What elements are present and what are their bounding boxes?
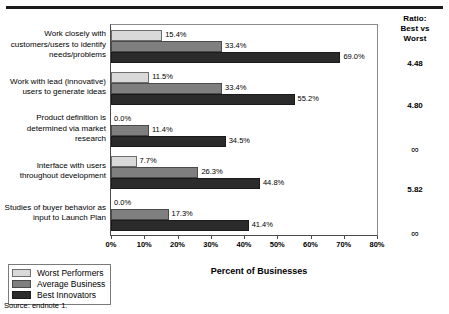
bar-row: 17.3%: [111, 209, 377, 220]
bar-row: 15.4%: [111, 30, 377, 41]
ratio-value: ∞: [384, 227, 446, 239]
bar-value-label: 41.4%: [252, 219, 273, 230]
bar-value-label: 15.4%: [165, 29, 186, 40]
x-tick-label: 20%: [163, 240, 193, 249]
ratio-header-line-2: Best vs: [384, 24, 446, 34]
bar-group: 11.5%33.4%55.2%: [111, 67, 377, 109]
ratio-header-line-3: Worst: [384, 34, 446, 44]
bar-row: 44.8%: [111, 178, 377, 189]
bar-value-label: 44.8%: [263, 177, 284, 188]
bar-value-label: 0.0%: [114, 197, 131, 208]
bar-value-label: 11.4%: [152, 124, 173, 135]
x-tick-mark: [178, 236, 179, 239]
ratio-column-header: Ratio: Best vs Worst: [384, 14, 446, 44]
legend-item-worst-performers: Worst Performers: [12, 268, 105, 278]
category-label: Work closely with customers/users to ide…: [0, 29, 106, 61]
legend-swatch-icon-best-innovators: [12, 291, 31, 299]
x-tick-label: 40%: [229, 240, 259, 249]
top-divider-rule: [6, 6, 443, 9]
bar-row: 33.4%: [111, 83, 377, 94]
bar-value-label: 34.5%: [229, 135, 250, 146]
bar-row: 11.5%: [111, 72, 377, 83]
bar-group: 15.4%33.4%69.0%: [111, 25, 377, 67]
legend-item-average-business: Average Business: [12, 279, 105, 289]
bar-worst-performers: [111, 30, 162, 41]
bar-best-innovators: [111, 52, 340, 63]
source-note: Source: endnote 1.: [4, 301, 67, 310]
bar-row: 33.4%: [111, 41, 377, 52]
bar-value-label: 26.3%: [201, 166, 222, 177]
bar-average-business: [111, 209, 169, 220]
bar-value-label: 11.5%: [152, 71, 173, 82]
x-tick-mark: [244, 236, 245, 239]
bar-value-label: 17.3%: [172, 208, 193, 219]
legend-swatch-icon-worst-performers: [12, 269, 31, 277]
category-axis-labels: Work closely with customers/users to ide…: [0, 24, 106, 236]
x-axis-ticks: 0%10%20%30%40%50%60%70%80%: [110, 236, 378, 252]
x-tick-mark: [311, 236, 312, 239]
bar-row: 11.4%: [111, 125, 377, 136]
ratio-value: 4.48: [384, 59, 446, 68]
x-tick-label: 0%: [96, 240, 126, 249]
x-tick-mark: [144, 236, 145, 239]
bar-best-innovators: [111, 220, 249, 231]
bar-value-label: 69.0%: [343, 51, 364, 62]
ratio-value: ∞: [384, 143, 446, 155]
bar-row: 7.7%: [111, 156, 377, 167]
x-axis-title: Percent of Businesses: [140, 266, 378, 276]
bar-average-business: [111, 41, 222, 52]
bar-best-innovators: [111, 136, 226, 147]
bar-worst-performers: [111, 72, 149, 83]
bar-row: 0.0%: [111, 198, 377, 209]
x-tick-mark: [211, 236, 212, 239]
bar-group: 7.7%26.3%44.8%: [111, 151, 377, 193]
bar-row: 41.4%: [111, 220, 377, 231]
category-label: Work with lead (innovative) users to gen…: [0, 77, 106, 98]
bar-value-label: 33.4%: [225, 82, 246, 93]
legend-label-average-business: Average Business: [37, 279, 105, 289]
x-tick-mark: [111, 236, 112, 239]
bar-value-label: 55.2%: [298, 93, 319, 104]
bar-value-label: 0.0%: [114, 113, 131, 124]
ratio-header-line-1: Ratio:: [384, 14, 446, 24]
bar-row: 34.5%: [111, 136, 377, 147]
legend-label-best-innovators: Best Innovators: [37, 290, 96, 300]
legend-item-best-innovators: Best Innovators: [12, 290, 105, 300]
x-tick-label: 70%: [329, 240, 359, 249]
bar-row: 69.0%: [111, 52, 377, 63]
bar-worst-performers: [111, 156, 137, 167]
x-tick-mark: [344, 236, 345, 239]
bar-group: 0.0%17.3%41.4%: [111, 193, 377, 235]
legend-label-worst-performers: Worst Performers: [37, 268, 103, 278]
bar-best-innovators: [111, 94, 295, 105]
category-label: Studies of buyer behavior as input to La…: [0, 203, 106, 224]
x-tick-label: 80%: [362, 240, 392, 249]
chart-legend: Worst Performers Average Business Best I…: [8, 264, 111, 305]
x-tick-label: 30%: [196, 240, 226, 249]
ratio-value: 5.82: [384, 185, 446, 194]
bar-value-label: 33.4%: [225, 40, 246, 51]
bar-row: 55.2%: [111, 94, 377, 105]
x-tick-label: 60%: [296, 240, 326, 249]
chart-figure: Ratio: Best vs Worst 4.484.80∞5.82∞ Work…: [0, 0, 449, 314]
x-tick-label: 50%: [262, 240, 292, 249]
bar-average-business: [111, 83, 222, 94]
bar-value-label: 7.7%: [140, 155, 157, 166]
x-tick-label: 10%: [129, 240, 159, 249]
category-label: Interface with users throughout developm…: [0, 161, 106, 182]
legend-swatch-icon-average-business: [12, 280, 31, 288]
bar-best-innovators: [111, 178, 260, 189]
bar-group: 0.0%11.4%34.5%: [111, 109, 377, 151]
ratio-value-list: 4.484.80∞5.82∞: [384, 44, 446, 236]
x-tick-mark: [377, 236, 378, 239]
bar-row: 26.3%: [111, 167, 377, 178]
bar-average-business: [111, 167, 198, 178]
x-tick-mark: [277, 236, 278, 239]
bar-average-business: [111, 125, 149, 136]
category-label: Product definition is determined via mar…: [0, 113, 106, 145]
ratio-value: 4.80: [384, 101, 446, 110]
bar-row: 0.0%: [111, 114, 377, 125]
bar-groups: 15.4%33.4%69.0%11.5%33.4%55.2%0.0%11.4%3…: [111, 25, 377, 235]
